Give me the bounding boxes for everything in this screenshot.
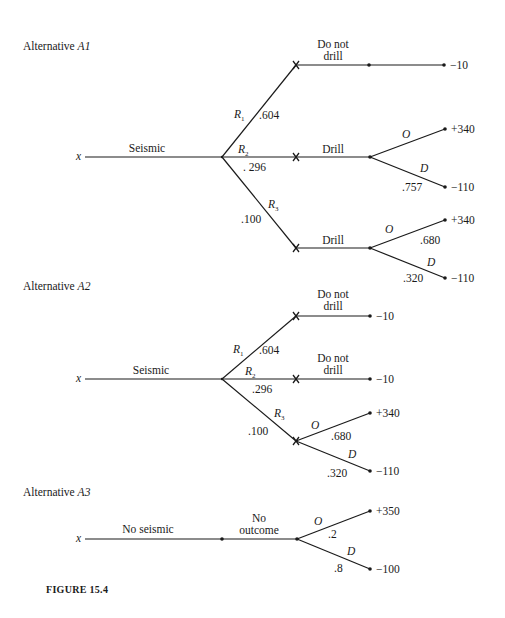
payoff-value: +340 (376, 407, 400, 419)
node-dot (368, 246, 372, 250)
branch-label: drill (323, 364, 342, 376)
branch-label: Seismic (133, 364, 169, 376)
payoff-value: −10 (376, 373, 394, 385)
root-label: x (75, 150, 82, 162)
branch-label: Do not (317, 288, 349, 300)
node-dot (368, 567, 372, 571)
branch-label: R2 (237, 143, 249, 158)
branch-label: .2 (328, 528, 337, 540)
branch-label: Drill (322, 234, 344, 246)
branch-label: D (419, 162, 429, 174)
branch-label: . 296 (243, 161, 266, 173)
node-dot (443, 185, 447, 189)
payoff-value: −110 (376, 465, 400, 477)
branch-label: No seismic (122, 523, 173, 535)
chance-node (221, 378, 223, 380)
branch-label: R3 (267, 198, 279, 213)
alternative-title: Alternative A1 (23, 40, 90, 52)
node-dot (368, 509, 372, 513)
branch-label: R1 (232, 343, 244, 358)
figure-caption: FIGURE 15.4 (46, 584, 108, 595)
branch-label: .680 (331, 430, 351, 442)
branch-label: Do not (317, 352, 349, 364)
node-dot (368, 155, 372, 159)
branch-label: O (311, 419, 320, 431)
payoff-value: −10 (376, 310, 394, 322)
payoff-value: −10 (450, 59, 468, 71)
branch-label: Do not (317, 38, 349, 50)
branch-label: .100 (241, 213, 261, 225)
node-dot (443, 218, 447, 222)
branch-label: R3 (273, 407, 285, 422)
node-dot (443, 127, 447, 131)
decision-node-x-icon (293, 437, 299, 445)
payoff-value: −100 (376, 563, 400, 575)
alternatives-group: Alternative A1xSeismicDo notdrillR1.604R… (23, 38, 475, 575)
node-dot (368, 377, 372, 381)
node-dot (295, 537, 299, 541)
node-dot (443, 276, 447, 280)
branch-label: O (402, 128, 411, 140)
node-dot (368, 469, 372, 473)
root-label: x (75, 532, 82, 544)
node-dot (367, 63, 371, 67)
node-dot (442, 63, 446, 67)
branch-label: D (347, 448, 357, 460)
alternative-a2: Alternative A2xSeismicDo notdrillR1.604R… (23, 280, 400, 479)
root-label: x (75, 372, 82, 384)
decision-tree-figure: Alternative A1xSeismicDo notdrillR1.604R… (0, 0, 505, 618)
branch-label: drill (323, 50, 342, 62)
payoff-value: −110 (451, 181, 475, 193)
branch-label: No (252, 512, 266, 524)
branch-label: Seismic (129, 142, 165, 154)
chance-node (221, 156, 223, 158)
payoff-value: +340 (451, 214, 475, 226)
branch-label: D (426, 256, 436, 268)
branch-label: D (346, 545, 356, 557)
branch-label: R1 (233, 108, 245, 123)
branch-label: .757 (402, 181, 422, 193)
branch-label: O (314, 515, 323, 527)
branch-label: .680 (420, 234, 440, 246)
branch-label: outcome (239, 524, 279, 536)
branch-label: .320 (327, 467, 347, 479)
branch-label: O (385, 223, 394, 235)
branch-label: .604 (259, 344, 279, 356)
alternative-title: Alternative A3 (23, 486, 91, 498)
alternative-a1: Alternative A1xSeismicDo notdrillR1.604R… (23, 38, 475, 284)
branch-label: Drill (322, 143, 344, 155)
branch-label: .320 (403, 272, 423, 284)
branch-label: drill (323, 300, 342, 312)
payoff-value: +340 (451, 123, 475, 135)
node-dot (368, 411, 372, 415)
node-dot (368, 314, 372, 318)
node-dot (220, 537, 224, 541)
payoff-value: −110 (451, 272, 475, 284)
branch-label: .100 (248, 425, 268, 437)
payoff-value: +350 (376, 505, 400, 517)
alternative-a3: Alternative A3xNo seismicNooutcomeO.2D.8… (23, 486, 400, 575)
alternative-title: Alternative A2 (23, 280, 91, 292)
branch-label: .604 (259, 109, 279, 121)
branch-label: .8 (334, 562, 343, 574)
branch-label: .296 (252, 383, 272, 395)
branch-label: R2 (244, 365, 256, 380)
